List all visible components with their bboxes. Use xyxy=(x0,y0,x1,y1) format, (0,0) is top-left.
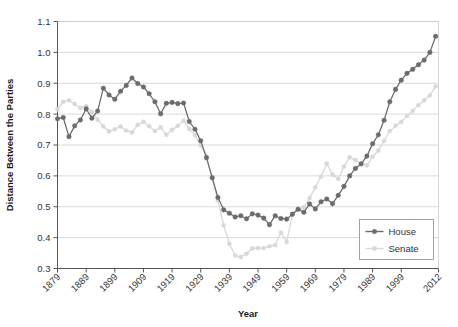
house-data-marker xyxy=(302,210,307,215)
house-data-marker xyxy=(147,91,152,96)
senate-data-marker xyxy=(405,114,409,118)
house-data-marker xyxy=(388,99,393,104)
x-tick-label: 1909 xyxy=(126,271,149,294)
x-tick-label: 1919 xyxy=(154,271,177,294)
senate-data-marker xyxy=(67,98,71,102)
legend-label-senate[interactable]: Senate xyxy=(389,243,419,254)
house-data-marker xyxy=(353,166,358,171)
house-data-marker xyxy=(330,201,335,206)
house-data-marker xyxy=(84,107,89,112)
senate-data-marker xyxy=(187,127,191,131)
x-axis-ticks: 1879188918991909191919291939194919591969… xyxy=(40,269,444,294)
senate-data-marker xyxy=(319,174,323,178)
senate-data-marker xyxy=(124,128,128,132)
senate-data-marker xyxy=(399,120,403,124)
house-data-marker xyxy=(267,222,272,227)
y-tick-label: 0.3 xyxy=(37,263,50,274)
senate-data-marker xyxy=(285,240,289,244)
senate-data-marker xyxy=(176,124,180,128)
chart-container: 0.30.40.50.60.70.80.91.01.1 187918891899… xyxy=(0,0,458,327)
x-tick-label: 1939 xyxy=(212,271,235,294)
house-data-marker xyxy=(112,97,117,102)
x-tick-label: 1979 xyxy=(326,271,349,294)
senate-data-marker xyxy=(73,102,77,106)
senate-data-marker xyxy=(233,253,237,257)
house-data-marker xyxy=(244,216,249,221)
house-data-marker xyxy=(204,155,209,160)
senate-data-marker xyxy=(61,100,65,104)
y-tick-label: 0.7 xyxy=(37,139,50,150)
house-data-marker xyxy=(261,216,266,221)
house-data-marker xyxy=(239,213,244,218)
house-data-marker xyxy=(376,133,381,138)
y-axis-ticks: 0.30.40.50.60.70.80.91.01.1 xyxy=(37,16,57,274)
house-data-marker xyxy=(410,67,415,72)
senate-data-marker xyxy=(416,103,420,107)
senate-data-marker xyxy=(388,129,392,133)
senate-data-marker xyxy=(342,165,346,169)
house-data-marker xyxy=(176,101,181,106)
x-axis-title: Year xyxy=(238,308,258,319)
senate-data-marker xyxy=(376,148,380,152)
senate-data-marker xyxy=(227,242,231,246)
senate-data-marker xyxy=(164,133,168,137)
house-data-marker xyxy=(198,138,203,143)
senate-data-marker xyxy=(222,223,226,227)
house-data-marker xyxy=(422,58,427,63)
senate-data-marker xyxy=(302,205,306,209)
senate-data-marker xyxy=(55,107,59,111)
senate-data-marker xyxy=(113,127,117,131)
senate-data-marker xyxy=(141,120,145,124)
house-data-marker xyxy=(72,124,77,129)
senate-data-marker xyxy=(365,163,369,167)
house-data-marker xyxy=(164,101,169,106)
senate-data-marker xyxy=(159,125,163,129)
y-tick-label: 1.0 xyxy=(37,47,50,58)
senate-data-marker xyxy=(371,155,375,159)
svg-text:Year: Year xyxy=(238,308,258,319)
house-data-marker xyxy=(370,141,375,146)
x-tick-label: 2012 xyxy=(421,271,444,294)
x-tick-label: 1889 xyxy=(68,271,91,294)
x-tick-label: 1959 xyxy=(269,271,292,294)
house-data-marker xyxy=(107,93,112,98)
senate-data-marker xyxy=(348,155,352,159)
house-data-marker xyxy=(416,62,421,67)
senate-data-marker xyxy=(90,110,94,114)
house-data-marker xyxy=(324,197,329,202)
house-data-marker xyxy=(256,213,261,218)
x-tick-label: 1999 xyxy=(383,271,406,294)
house-data-marker xyxy=(433,34,438,39)
senate-data-marker xyxy=(267,244,271,248)
house-data-marker xyxy=(359,162,364,167)
house-data-marker xyxy=(170,100,175,105)
house-data-marker xyxy=(273,213,278,218)
house-data-marker xyxy=(95,109,100,114)
senate-data-marker xyxy=(147,124,151,128)
senate-data-marker xyxy=(193,133,197,137)
house-data-marker xyxy=(405,71,410,76)
house-data-marker xyxy=(141,85,146,90)
senate-data-marker xyxy=(118,124,122,128)
house-data-marker xyxy=(181,101,186,106)
house-data-marker xyxy=(279,216,284,221)
chart-legend[interactable]: HouseSenate xyxy=(360,220,434,260)
senate-data-marker xyxy=(250,246,254,250)
senate-data-marker xyxy=(244,252,248,256)
house-data-marker xyxy=(336,193,341,198)
house-data-marker xyxy=(193,127,198,132)
house-data-marker xyxy=(118,89,123,94)
senate-data-marker xyxy=(382,139,386,143)
senate-data-marker xyxy=(136,123,140,127)
house-data-marker xyxy=(135,81,140,86)
house-data-marker xyxy=(307,202,312,207)
senate-data-marker xyxy=(313,185,317,189)
house-data-marker xyxy=(347,174,352,179)
svg-text:Distance Between the Parties: Distance Between the Parties xyxy=(4,79,15,212)
senate-data-marker xyxy=(170,128,174,132)
senate-data-marker xyxy=(325,161,329,165)
legend-label-house[interactable]: House xyxy=(389,226,416,237)
house-data-marker xyxy=(55,116,60,121)
house-data-marker xyxy=(382,118,387,123)
senate-data-marker xyxy=(101,124,105,128)
